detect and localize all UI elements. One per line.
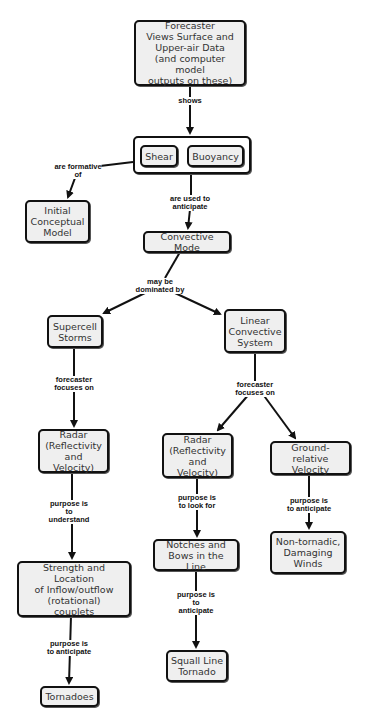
link-label-anticipate-winds: purpose is to anticipate [287,497,331,513]
link-label-formative-of: are formative of [54,163,101,179]
node-ground-relative-velocity[interactable]: Ground-relative Velocity [270,441,351,475]
node-squall-line-tornado[interactable]: Squall Line Tornado [166,650,228,682]
concept-map: Forecaster Views Surface and Upper-air D… [0,0,369,723]
node-shear-buoyancy-group[interactable]: Shear Buoyancy [133,136,251,174]
link-label-shows: shows [178,97,201,105]
link-label-look-for: purpose is to look for [178,494,216,510]
node-initial-conceptual-model[interactable]: Initial Conceptual Model [25,200,90,243]
node-forecaster-data[interactable]: Forecaster Views Surface and Upper-air D… [134,20,246,86]
node-shear[interactable]: Shear [140,145,178,167]
link-label-focuses-linear: forecaster focuses on [235,381,275,397]
link-label-focuses-supercell: forecaster focuses on [54,376,94,392]
link-label-dominated-by: may be dominated by [136,278,185,294]
node-notches-bows[interactable]: Notches and Bows in the Line [153,539,239,571]
link-label-used-to-anticipate: are used to anticipate [170,195,210,211]
node-convective-mode[interactable]: Convective Mode [143,231,231,253]
node-radar-linear[interactable]: Radar (Reflectivity and Velocity) [162,433,233,478]
node-strength-location-couplets[interactable]: Strength and Location of Inflow/outflow … [17,561,131,617]
link-label-understand: purpose is to understand [49,500,90,524]
node-tornadoes[interactable]: Tornadoes [40,686,99,707]
link-label-anticipate-tornadoes: purpose is to anticipate [47,640,91,656]
node-non-tornadic-winds[interactable]: Non-tornadic, Damaging Winds [270,531,346,574]
node-linear-convective-system[interactable]: Linear Convective System [224,309,286,353]
node-buoyancy[interactable]: Buoyancy [187,145,244,167]
node-radar-supercell[interactable]: Radar (Reflectivity and Velocity) [38,429,109,473]
node-supercell-storms[interactable]: Supercell Storms [47,315,103,348]
link-label-anticipate-squall: purpose is to anticipate [177,591,215,615]
